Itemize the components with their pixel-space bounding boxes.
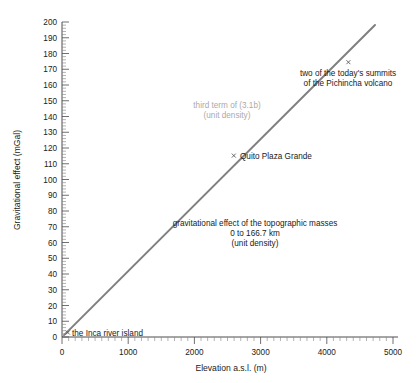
y-tick-label: 120 <box>43 144 57 153</box>
y-tick-label: 50 <box>48 254 58 263</box>
y-tick-label: 90 <box>48 191 58 200</box>
annotation-third-term-line2: (unit density) <box>204 111 251 120</box>
y-tick-label: 200 <box>43 18 57 27</box>
y-tick-label: 0 <box>52 333 57 342</box>
annotation-topographic-line1: gravitational effect of the topographic … <box>173 219 338 228</box>
gravity-elevation-chart: 200 190 180 170 160 150 140 130 120 110 … <box>0 0 420 383</box>
annotation-quito-plaza-grande: Quito Plaza Grande <box>240 152 312 161</box>
y-tick-label: 190 <box>43 34 57 43</box>
x-tick-label: 5000 <box>384 348 403 357</box>
y-tick-label: 80 <box>48 207 58 216</box>
y-tick-label: 40 <box>48 270 58 279</box>
annotation-third-term-line1: third term of (3.1b) <box>193 101 261 110</box>
annotation-pichincha-line2: of the Pichincha volcano <box>304 79 393 88</box>
x-tick-label: 3000 <box>251 348 270 357</box>
y-tick-label: 110 <box>44 160 57 169</box>
y-tick-label: 130 <box>43 128 57 137</box>
annotation-pichincha-line1: two of the today's summits <box>300 69 396 78</box>
y-tick-label: 60 <box>48 239 58 248</box>
y-tick-labels: 200 190 180 170 160 150 140 130 120 110 … <box>43 18 57 342</box>
y-tick-label: 100 <box>43 176 57 185</box>
x-tick-label: 1000 <box>119 348 138 357</box>
marker-pichincha-summits <box>346 60 350 64</box>
y-tick-label: 20 <box>48 302 58 311</box>
x-tick-labels: 0 1000 2000 3000 4000 5000 <box>60 348 403 357</box>
y-tick-label: 30 <box>48 286 58 295</box>
y-axis-ticks <box>62 22 69 337</box>
x-tick-label: 4000 <box>318 348 337 357</box>
y-tick-label: 140 <box>43 113 57 122</box>
y-tick-label: 160 <box>43 81 57 90</box>
y-axis-title: Gravitational effect (mGal) <box>12 130 22 230</box>
y-tick-label: 170 <box>43 65 57 74</box>
y-tick-label: 10 <box>48 317 58 326</box>
marker-quito-plaza-grande <box>232 154 236 158</box>
y-tick-label: 150 <box>43 97 57 106</box>
x-tick-label: 0 <box>60 348 65 357</box>
x-axis-title: Elevation a.s.l. (m) <box>195 363 266 373</box>
y-tick-label: 180 <box>43 50 57 59</box>
y-tick-label: 70 <box>48 223 58 232</box>
annotation-topographic-line2: 0 to 166.7 km <box>230 229 280 238</box>
x-tick-label: 2000 <box>185 348 204 357</box>
annotation-topographic-line3: (unit density) <box>232 239 279 248</box>
chart-canvas: 200 190 180 170 160 150 140 130 120 110 … <box>0 0 420 383</box>
annotation-inca-river-island: the Inca river island <box>72 329 143 338</box>
